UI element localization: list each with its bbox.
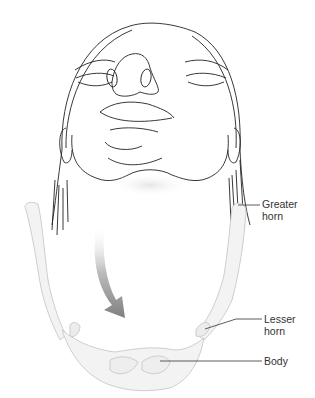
neck-shading <box>110 173 190 197</box>
leader-lines <box>160 205 262 361</box>
label-body: Body <box>264 355 288 367</box>
arrow-icon <box>95 225 125 318</box>
label-lesser-horn: Lesser horn <box>264 313 296 337</box>
hyoid-diagram: Greater horn Lesser horn Body <box>0 0 315 398</box>
label-greater-horn: Greater horn <box>262 198 298 222</box>
head-illustration <box>52 23 250 235</box>
hyoid-bone <box>25 202 246 390</box>
